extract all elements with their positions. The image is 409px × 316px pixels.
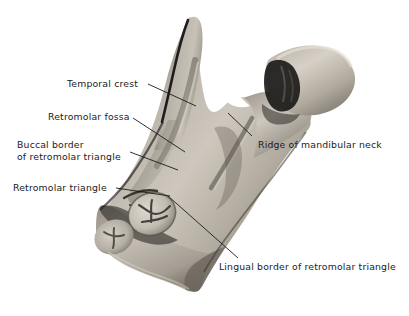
label-ridge-of-mandibular-neck: Ridge of mandibular neck xyxy=(258,139,382,151)
label-lingual-border: Lingual border of retromolar triangle xyxy=(219,261,396,273)
label-temporal-crest: Temporal crest xyxy=(67,78,138,90)
label-retromolar-fossa: Retromolar fossa xyxy=(48,111,130,123)
label-retromolar-triangle: Retromolar triangle xyxy=(13,182,107,194)
label-buccal-border-line2: of retromolar triangle xyxy=(17,151,121,163)
label-buccal-border-line1: Buccal border xyxy=(17,139,84,151)
